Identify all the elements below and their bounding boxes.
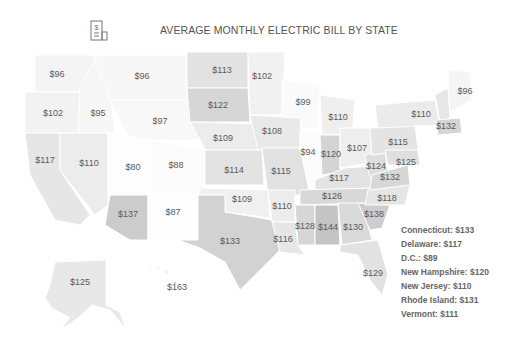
legend-item: Vermont: $111 [401, 307, 489, 321]
state-value-or: $102 [43, 108, 63, 118]
state-value-fl: $129 [363, 268, 383, 278]
state-value-mo: $115 [271, 166, 290, 176]
state-value-ca: $117 [35, 155, 54, 165]
state-value-mi: $110 [328, 112, 347, 122]
state-value-wy: $97 [152, 116, 167, 126]
legend-item: Rhode Island: $131 [401, 293, 489, 307]
legend-item: D.C.: $89 [401, 251, 489, 265]
state-value-az: $137 [118, 209, 138, 219]
state-value-ne: $109 [213, 133, 233, 143]
state-value-id: $95 [90, 108, 105, 118]
state-value-ut: $80 [125, 162, 140, 172]
state-value-il: $94 [300, 147, 315, 157]
state-value-mn: $102 [252, 71, 272, 81]
state-ak [45, 260, 125, 330]
state-value-ok: $109 [232, 194, 252, 204]
state-value-ky: $117 [329, 173, 348, 183]
state-value-ma: $132 [436, 121, 456, 131]
legend-item: New Hampshire: $120 [401, 265, 489, 279]
state-value-oh: $107 [347, 143, 367, 153]
state-value-la: $116 [273, 234, 292, 244]
legend-item: Connecticut: $133 [401, 223, 489, 237]
state-value-pa: $115 [388, 137, 407, 147]
state-value-mt: $96 [134, 71, 149, 81]
state-value-wv: $124 [366, 161, 386, 171]
state-nm [148, 195, 198, 240]
state-value-sd: $122 [208, 100, 228, 110]
state-value-nv: $110 [79, 158, 98, 168]
state-value-tx: $133 [220, 236, 240, 246]
state-value-hi: $163 [167, 282, 187, 292]
state-value-ak: $125 [70, 277, 90, 287]
small-states-legend: Connecticut: $133 Delaware: $117 D.C.: $… [401, 223, 489, 321]
state-value-ks: $114 [224, 165, 243, 175]
state-value-ms: $128 [295, 221, 315, 231]
state-value-wa: $96 [49, 69, 64, 79]
state-value-nc: $118 [377, 193, 396, 203]
state-value-ar: $110 [272, 201, 291, 211]
state-value-va: $132 [380, 172, 400, 182]
state-value-ia: $108 [262, 126, 282, 136]
state-value-nm: $87 [165, 207, 180, 217]
state-value-in: $120 [321, 149, 341, 159]
state-value-wi: $99 [295, 97, 310, 107]
state-value-ga: $130 [343, 222, 363, 232]
state-value-nd: $113 [212, 65, 231, 75]
state-value-co: $88 [168, 160, 183, 170]
state-value-al: $144 [318, 222, 338, 232]
legend-item: Delaware: $117 [401, 237, 489, 251]
state-value-tn: $126 [322, 191, 342, 201]
state-mn [248, 52, 285, 115]
state-value-ny: $110 [411, 109, 430, 119]
state-value-me: $96 [457, 86, 472, 96]
state-value-sc: $138 [364, 209, 384, 219]
legend-item: New Jersey: $110 [401, 279, 489, 293]
state-value-md: $125 [396, 157, 416, 167]
state-hi [149, 265, 151, 267]
